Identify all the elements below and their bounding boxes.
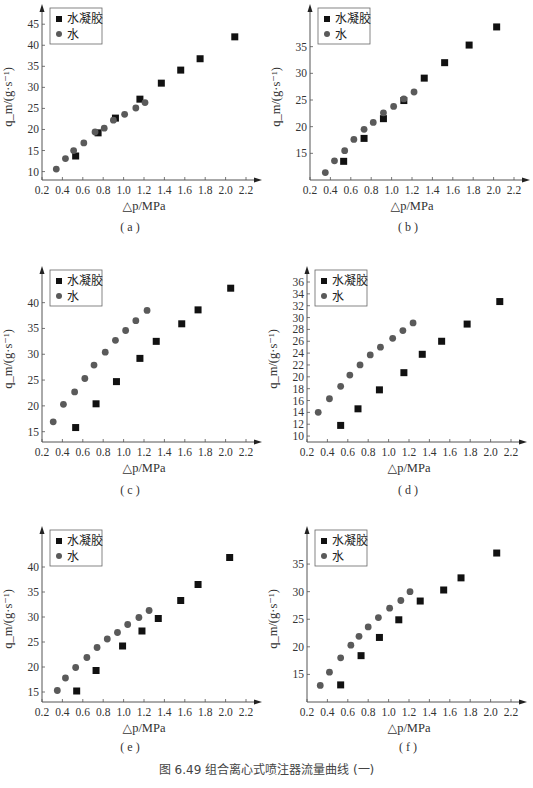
legend: 水凝胶水 [315,270,368,306]
data-point-circle [81,375,88,382]
data-point-circle [375,614,382,621]
data-point-circle [54,687,61,694]
data-point-circle [136,614,143,621]
y-tick-label: 14 [293,406,305,418]
x-tick-label: 0.2 [300,446,315,458]
data-point-circle [400,96,407,103]
y-tick-label: 40 [28,561,40,573]
data-point-circle [377,344,384,351]
data-point-square [178,320,185,327]
y-axis-arrow-icon [40,526,45,534]
data-point-square [136,355,143,362]
x-tick-label: 0.6 [76,446,91,458]
data-point-square [421,75,428,82]
y-tick-label: 35 [296,41,308,53]
x-tick-label: 1.8 [198,184,213,196]
x-tick-label: 0.6 [76,184,91,196]
legend-circle-icon [56,31,62,37]
data-point-square [361,135,368,142]
data-point-circle [357,362,364,369]
y-tick-label: 20 [28,123,40,135]
data-point-circle [326,395,333,402]
y-axis-arrow-icon [305,526,310,534]
data-point-circle [91,362,98,369]
data-point-circle [350,136,357,143]
x-tick-label: 1.8 [466,184,481,196]
x-tick-label: 1.2 [402,706,417,718]
x-tick-label: 1.6 [443,446,458,458]
x-axis-arrow-icon [254,178,262,183]
data-point-circle [104,636,111,643]
legend: 水凝胶水 [50,270,103,306]
data-point-square [458,574,465,581]
data-point-square [155,615,162,622]
data-point-circle [102,349,109,356]
x-tick-label: 2.2 [239,446,254,458]
chart-panel-a: 0.20.40.60.81.01.21.41.61.82.02.21015202… [0,0,260,200]
data-point-square [417,598,424,605]
data-point-circle [399,327,406,334]
data-point-circle [367,351,374,358]
data-point-square [358,652,365,659]
data-point-square [158,80,165,87]
x-tick-label: 1.4 [157,706,172,718]
y-tick-label: 36 [293,276,305,288]
series-gel [340,23,500,164]
data-point-square [441,59,448,66]
y-tick-label: 30 [296,67,308,79]
data-point-circle [390,103,397,110]
legend-label-gel: 水凝胶 [332,273,368,288]
data-point-square [197,55,204,62]
legend-label-water: 水 [332,550,344,564]
y-tick-label: 15 [28,145,40,157]
data-point-circle [407,588,414,595]
x-tick-label: 1.0 [116,184,131,196]
x-tick-label: 1.4 [157,184,172,196]
legend-label-gel: 水凝胶 [335,11,371,26]
x-tick-label: 0.2 [35,706,50,718]
y-tick-label: 26 [293,335,305,347]
data-point-circle [337,654,344,661]
x-tick-label: 2.0 [218,184,233,196]
x-tick-label: 1.8 [463,446,478,458]
y-axis-arrow-icon [308,4,313,12]
legend-square-icon [324,16,330,22]
legend-label-water: 水 [67,28,79,42]
subplot-label-d: ( d ) [378,483,438,498]
chart-a: 0.20.40.60.81.01.21.41.61.82.02.21015202… [0,0,260,200]
x-tick-label: 1.0 [381,706,396,718]
data-point-square [496,298,503,305]
chart-c: 0.20.40.60.81.01.21.41.61.82.02.21520253… [0,262,265,462]
data-point-square [119,643,126,650]
chart-f: 0.20.40.60.81.01.21.41.61.82.02.21520253… [265,522,533,722]
x-axis-arrow-icon [254,700,262,705]
y-tick-label: 32 [293,300,305,312]
data-point-circle [386,605,393,612]
data-point-circle [322,169,329,176]
y-axis-title: q_m/(g·s⁻¹) [266,329,280,389]
x-tick-label: 1.6 [446,184,461,196]
data-point-square [438,338,445,345]
x-tick-label: 1.0 [116,446,131,458]
legend: 水凝胶水 [318,8,371,44]
legend-label-water: 水 [67,550,79,564]
data-point-circle [124,621,131,628]
x-tick-label: 1.8 [463,706,478,718]
x-tick-label: 0.4 [320,706,335,718]
legend-label-gel: 水凝胶 [67,533,103,548]
data-point-circle [337,383,344,390]
data-point-circle [121,111,128,118]
y-tick-label: 30 [28,348,40,360]
legend-square-icon [56,278,62,284]
legend-label-water: 水 [332,290,344,304]
x-tick-label: 1.2 [137,706,152,718]
y-axis-arrow-icon [305,266,310,274]
legend-circle-icon [324,31,330,37]
data-point-circle [110,117,117,124]
x-tick-label: 0.4 [323,184,338,196]
subplot-label-a: ( a ) [100,220,160,235]
data-point-circle [62,675,69,682]
data-point-circle [80,140,87,147]
y-tick-label: 35 [28,586,40,598]
x-tick-label: 0.4 [320,446,335,458]
